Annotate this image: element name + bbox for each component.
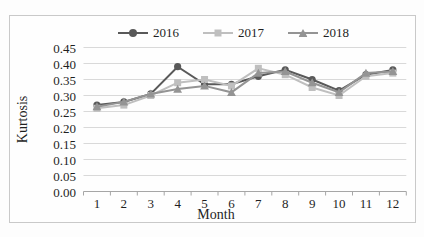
x-axis-tick-label: 4 — [165, 197, 191, 210]
legend-item-2016: 2016 — [118, 26, 179, 40]
y-axis-tick-label: 0.35 — [40, 74, 76, 87]
y-axis-tick-label: 0.20 — [40, 122, 76, 135]
x-axis-tick-label: 12 — [380, 197, 406, 210]
legend-label-2017: 2017 — [238, 26, 264, 40]
y-axis-title: Kurtosis — [15, 72, 30, 168]
x-axis-tick-label: 3 — [138, 197, 164, 210]
legend-label-2018: 2018 — [323, 26, 349, 40]
x-axis-tick-label: 9 — [299, 197, 325, 210]
y-axis-tick-label: 0.40 — [40, 58, 76, 71]
x-axis-tick-label: 5 — [192, 197, 218, 210]
y-axis-tick-label: 0.05 — [40, 170, 76, 183]
chart-figure: { "chart_data": { "type": "line", "title… — [0, 0, 424, 237]
legend-label-2016: 2016 — [153, 26, 179, 40]
y-axis-tick-label: 0.00 — [40, 186, 76, 199]
y-axis-tick-label: 0.10 — [40, 154, 76, 167]
circle-marker-icon — [174, 63, 181, 70]
x-axis-tick-label: 6 — [218, 197, 244, 210]
legend-item-2018: 2018 — [288, 26, 349, 40]
x-axis-tick-label: 8 — [272, 197, 298, 210]
y-axis-tick-label: 0.30 — [40, 90, 76, 103]
x-axis-tick-label: 10 — [326, 197, 352, 210]
x-axis-tick-label: 2 — [111, 197, 137, 210]
legend-item-2017: 2017 — [203, 26, 264, 40]
circle-marker-icon — [129, 29, 137, 37]
y-axis-tick-label: 0.15 — [40, 138, 76, 151]
x-axis-tick-label: 7 — [245, 197, 271, 210]
y-axis-tick-label: 0.45 — [40, 42, 76, 55]
y-axis-tick-label: 0.25 — [40, 106, 76, 119]
legend-swatch-2018 — [288, 28, 318, 38]
legend-swatch-2017 — [203, 28, 233, 38]
x-axis-tick-label: 1 — [84, 197, 110, 210]
square-marker-icon — [215, 30, 222, 37]
series-line-2017 — [97, 68, 393, 108]
legend-swatch-2016 — [118, 28, 148, 38]
x-axis-tick-label: 11 — [353, 197, 379, 210]
legend: 2016 2017 2018 — [118, 26, 349, 40]
